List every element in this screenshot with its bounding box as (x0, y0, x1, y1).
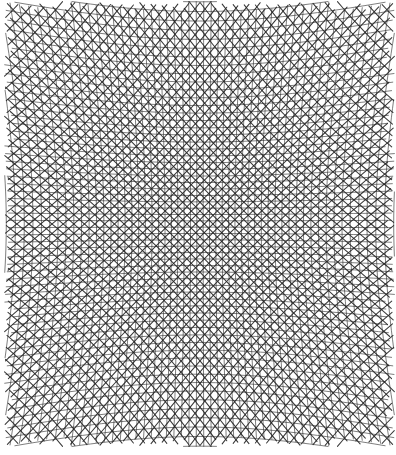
moire-lattice-drawing (0, 0, 396, 455)
artwork-canvas (0, 0, 396, 455)
